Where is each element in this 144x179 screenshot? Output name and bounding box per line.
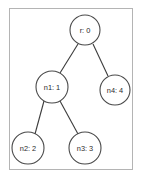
tree-diagram: r: 0 n1: 1 n4: 4 n2: 2 n3: 3 bbox=[0, 0, 144, 179]
node-n1-label: n1: 1 bbox=[44, 83, 60, 92]
node-r[interactable]: r: 0 bbox=[70, 15, 100, 45]
node-n2-label: n2: 2 bbox=[20, 144, 36, 153]
node-n2[interactable]: n2: 2 bbox=[12, 132, 44, 164]
node-n4-label: n4: 4 bbox=[107, 86, 123, 95]
edge-n1-n3 bbox=[60, 101, 78, 134]
edge-r-n4 bbox=[93, 44, 108, 76]
node-n3-label: n3: 3 bbox=[77, 144, 93, 153]
node-n4[interactable]: n4: 4 bbox=[100, 75, 130, 105]
node-n1[interactable]: n1: 1 bbox=[36, 71, 68, 103]
node-n3[interactable]: n3: 3 bbox=[69, 132, 101, 164]
edge-n1-n2 bbox=[35, 101, 44, 134]
graph-canvas: r: 0 n1: 1 n4: 4 n2: 2 n3: 3 bbox=[0, 0, 144, 179]
edge-r-n1 bbox=[60, 44, 78, 73]
node-r-label: r: 0 bbox=[80, 26, 91, 35]
